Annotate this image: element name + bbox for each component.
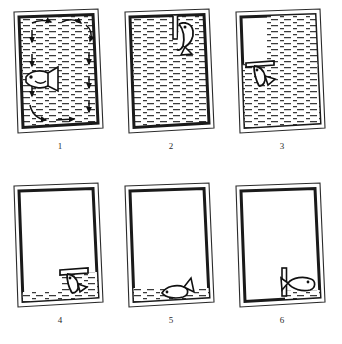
figure-panel-5: 5	[121, 180, 221, 335]
panel-1-label: 1	[10, 140, 110, 152]
panel-4-label: 4	[10, 314, 110, 326]
panel-4-artwork	[10, 180, 110, 314]
figure-panel-3: 3	[232, 6, 332, 161]
panel-5-label: 5	[121, 314, 221, 326]
panel-6-label: 6	[232, 314, 332, 326]
figure-panel-2: 2	[121, 6, 221, 161]
figure-panel-1: 1	[10, 6, 110, 161]
panel-1-artwork	[10, 6, 110, 140]
figure-panel-4: 4	[10, 180, 110, 335]
figure-sheet: 1	[0, 0, 342, 344]
figure-panel-6: 6	[232, 180, 332, 335]
panel-2-artwork	[121, 6, 221, 140]
panel-5-artwork	[121, 180, 221, 314]
panel-3-label: 3	[232, 140, 332, 152]
panel-6-artwork	[232, 180, 332, 314]
panel-3-artwork	[232, 6, 332, 140]
panel-2-label: 2	[121, 140, 221, 152]
